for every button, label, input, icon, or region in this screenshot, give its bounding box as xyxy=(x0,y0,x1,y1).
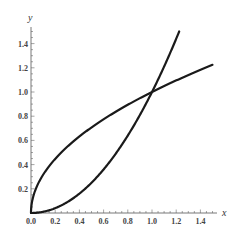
x-tick-label: 1.4 xyxy=(195,217,205,226)
y-tick-label: 0.8 xyxy=(18,112,28,121)
y-tick-label: 1.2 xyxy=(18,64,28,73)
square-curve xyxy=(31,32,179,214)
sqrt-curve xyxy=(31,65,213,213)
x-tick-label: 1.0 xyxy=(147,217,157,226)
x-tick-label: 0.0 xyxy=(26,217,36,226)
y-ticks: 0.20.40.60.81.01.21.4 xyxy=(18,32,35,207)
x-tick-label: 0.2 xyxy=(50,217,60,226)
series-group xyxy=(31,32,213,214)
y-tick-label: 0.2 xyxy=(18,185,28,194)
y-axis-label: y xyxy=(27,12,33,23)
axes: 0.00.20.40.60.81.01.21.4 0.20.40.60.81.0… xyxy=(18,12,227,226)
x-tick-label: 0.8 xyxy=(123,217,133,226)
x-tick-label: 0.4 xyxy=(74,217,84,226)
x-axis-label: x xyxy=(221,207,227,218)
x-tick-label: 0.6 xyxy=(99,217,109,226)
y-tick-label: 0.4 xyxy=(18,161,28,170)
x-tick-label: 1.2 xyxy=(171,217,181,226)
x-ticks: 0.00.20.40.60.81.01.21.4 xyxy=(26,210,213,227)
chart: 0.00.20.40.60.81.01.21.4 0.20.40.60.81.0… xyxy=(0,0,237,242)
y-tick-label: 1.4 xyxy=(18,40,28,49)
y-tick-label: 1.0 xyxy=(18,88,28,97)
y-tick-label: 0.6 xyxy=(18,136,28,145)
